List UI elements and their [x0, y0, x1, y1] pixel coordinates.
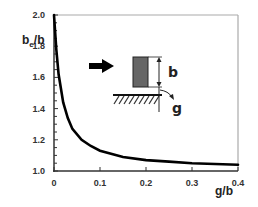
flow-arrow-icon: [89, 59, 114, 73]
data-curve: [54, 15, 238, 165]
block-shape: [133, 57, 148, 87]
wall-hatch: [114, 96, 159, 104]
y-tick-label: 1.4: [32, 104, 45, 114]
x-tick-label: 0.1: [94, 178, 107, 188]
inset-label-g: g: [172, 100, 182, 116]
chart: 1.01.21.41.61.82.0 00.10.20.30.4 be/b g/…: [0, 0, 258, 207]
x-tick-label: 0: [51, 178, 56, 188]
x-tick-label: 0.2: [140, 178, 153, 188]
x-tick-label: 0.3: [186, 178, 199, 188]
inset-schematic: b g: [89, 57, 182, 116]
y-tick-label: 2.0: [32, 10, 45, 20]
y-tick-label: 1.2: [32, 135, 45, 145]
inset-label-b: b: [168, 64, 178, 80]
y-tick-label: 1.0: [32, 166, 45, 176]
x-tick-label: 0.4: [232, 178, 245, 188]
x-axis-title: g/b: [215, 184, 233, 198]
y-tick-label: 1.6: [32, 72, 45, 82]
y-axis-title: be/b: [22, 33, 44, 49]
